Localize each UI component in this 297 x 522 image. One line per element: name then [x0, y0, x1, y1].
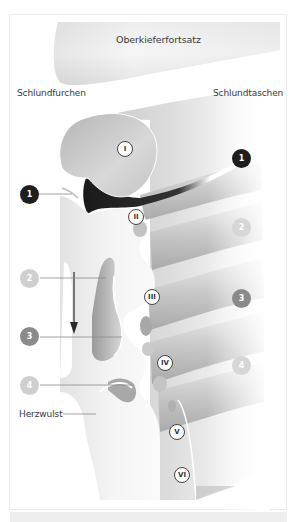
- label-pharyngeal-grooves: Schlundfurchen: [17, 88, 86, 98]
- groove-badge-3: 3: [20, 327, 39, 346]
- label-cardiac-bulge: Herzwulst: [19, 409, 63, 419]
- pouch-badge-3: 3: [232, 289, 251, 308]
- arch-marker-IV: IV: [157, 355, 173, 371]
- pharyngeal-arches-illustration: [0, 0, 297, 522]
- groove-badge-2: 2: [20, 269, 39, 288]
- pouch-badge-1: 1: [232, 149, 251, 168]
- groove-badge-1: 1: [20, 185, 39, 204]
- arch-marker-II: II: [128, 209, 144, 225]
- label-maxillary-process: Oberkieferfortsatz: [116, 34, 201, 45]
- arch-marker-VI: VI: [174, 467, 190, 483]
- pouch-badge-4: 4: [232, 356, 251, 375]
- arch-marker-I: I: [117, 141, 133, 157]
- label-pharyngeal-pouches: Schlundtaschen: [213, 88, 283, 98]
- pouch-badge-2: 2: [232, 218, 251, 237]
- groove-badge-4: 4: [20, 376, 39, 395]
- arch-marker-III: III: [144, 289, 160, 305]
- arch-marker-V: V: [169, 424, 185, 440]
- caption-strip: [10, 512, 287, 522]
